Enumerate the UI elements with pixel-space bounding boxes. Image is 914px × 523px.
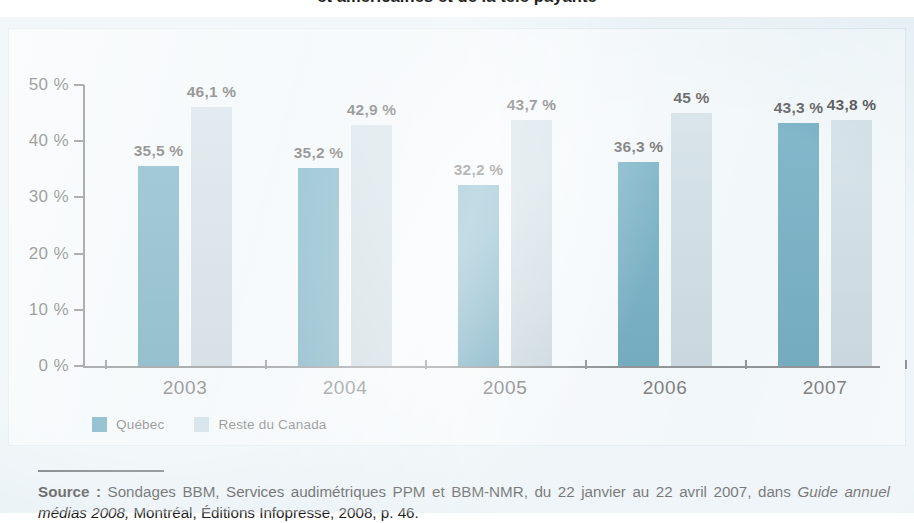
legend-item-qu-bec: Québec <box>92 417 164 432</box>
source-note: Source : Sondages BBM, Services audimétr… <box>38 481 890 523</box>
legend-label: Québec <box>116 417 164 432</box>
figure-panel: 0 %10 %20 %30 %40 %50 % 35,5 %46,1 %35,2… <box>0 17 914 513</box>
bar-reste-du-canada-2007: 43,8 % <box>831 120 872 366</box>
y-tick-label-50: 50 % <box>13 75 69 95</box>
legend-item-reste-du-canada: Reste du Canada <box>194 417 326 432</box>
bar-fill <box>618 162 659 366</box>
source-divider-rule <box>38 470 164 472</box>
legend-swatch-reste-du-canada <box>194 417 209 432</box>
bar-value-label: 42,9 % <box>347 101 396 119</box>
bar-chart: 0 %10 %20 %30 %40 %50 % 35,5 %46,1 %35,2… <box>8 28 906 446</box>
x-tick-4 <box>745 360 747 369</box>
y-tick-label-20: 20 % <box>13 244 69 264</box>
bar-fill <box>351 125 392 366</box>
y-tick-20 <box>74 253 84 255</box>
x-tick-5 <box>905 360 907 369</box>
page-title: et américaines et de la télé payante <box>0 0 914 6</box>
legend-label: Reste du Canada <box>218 417 326 432</box>
bar-reste-du-canada-2003: 46,1 % <box>191 107 232 366</box>
x-tick-0 <box>105 360 107 369</box>
y-tick-30 <box>74 196 84 198</box>
x-category-label-2007: 2007 <box>765 377 885 399</box>
x-category-label-2004: 2004 <box>285 377 405 399</box>
bar-value-label: 43,7 % <box>507 96 556 114</box>
source-text-part1: Sondages BBM, Services audimétriques PPM… <box>101 483 797 500</box>
source-label: Source : <box>38 483 101 500</box>
bar-value-label: 46,1 % <box>187 83 236 101</box>
bar-value-label: 45 % <box>673 89 709 107</box>
x-tick-1 <box>265 360 267 369</box>
chart-legend: QuébecReste du Canada <box>92 417 327 432</box>
y-tick-label-30: 30 % <box>13 187 69 207</box>
bar-fill <box>191 107 232 366</box>
y-tick-10 <box>74 309 84 311</box>
bar-fill <box>138 166 179 366</box>
bar-qu-bec-2007: 43,3 % <box>778 123 819 366</box>
legend-swatch-quebec <box>92 417 107 432</box>
bar-fill <box>778 123 819 366</box>
bar-value-label: 43,8 % <box>827 96 876 114</box>
y-axis-tick-labels: 0 %10 %20 %30 %40 %50 % <box>9 29 69 447</box>
y-tick-label-40: 40 % <box>13 131 69 151</box>
bar-fill <box>298 168 339 366</box>
bar-qu-bec-2005: 32,2 % <box>458 185 499 366</box>
bar-fill <box>831 120 872 366</box>
y-tick-0 <box>74 365 84 367</box>
bar-fill <box>671 113 712 366</box>
bar-fill <box>458 185 499 366</box>
x-category-label-2006: 2006 <box>605 377 725 399</box>
bar-value-label: 35,5 % <box>134 142 183 160</box>
y-tick-50 <box>74 84 84 86</box>
x-tick-2 <box>425 360 427 369</box>
y-axis-line <box>83 85 85 367</box>
chart-title-strip: et américaines et de la télé payante <box>0 0 914 17</box>
bar-qu-bec-2004: 35,2 % <box>298 168 339 366</box>
x-tick-3 <box>585 360 587 369</box>
x-axis-line <box>83 366 880 368</box>
y-tick-label-0: 0 % <box>13 356 69 376</box>
bar-fill <box>511 120 552 366</box>
source-text-part2: Montréal, Éditions Infopresse, 2008, p. … <box>129 504 419 521</box>
y-tick-40 <box>74 140 84 142</box>
x-category-label-2003: 2003 <box>125 377 245 399</box>
x-category-label-2005: 2005 <box>445 377 565 399</box>
bar-qu-bec-2006: 36,3 % <box>618 162 659 366</box>
bar-reste-du-canada-2006: 45 % <box>671 113 712 366</box>
y-tick-label-10: 10 % <box>13 300 69 320</box>
bar-value-label: 36,3 % <box>614 138 663 156</box>
bar-value-label: 35,2 % <box>294 144 343 162</box>
bar-reste-du-canada-2004: 42,9 % <box>351 125 392 366</box>
bar-value-label: 32,2 % <box>454 161 503 179</box>
bar-value-label: 43,3 % <box>774 99 823 117</box>
bar-qu-bec-2003: 35,5 % <box>138 166 179 366</box>
bar-reste-du-canada-2005: 43,7 % <box>511 120 552 366</box>
